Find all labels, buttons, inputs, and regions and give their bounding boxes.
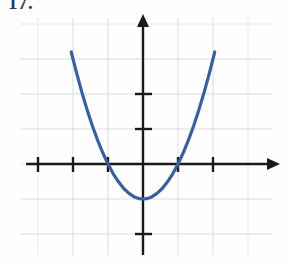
figure-page: 17. (0, 0, 288, 269)
graph-plot-area (0, 0, 288, 269)
y-axis-arrow-icon (137, 14, 149, 27)
x-axis (26, 158, 280, 170)
coordinate-plane-svg (0, 0, 288, 269)
y-axis (137, 14, 149, 255)
x-axis-arrow-icon (267, 158, 280, 170)
